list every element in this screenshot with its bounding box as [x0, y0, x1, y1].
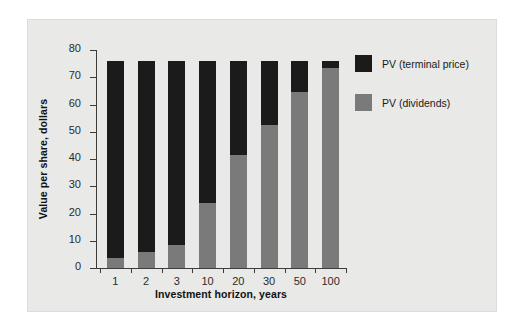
y-tick: 70 — [90, 77, 96, 78]
y-tick: 20 — [90, 214, 96, 215]
bar-segment-dividends — [107, 258, 124, 268]
x-tick — [285, 268, 286, 273]
y-tick-label: 80 — [55, 42, 81, 54]
y-tick-label: 20 — [55, 206, 81, 218]
bar-segment-terminal-price — [291, 61, 308, 92]
x-tick — [100, 268, 101, 273]
y-tick: 30 — [90, 186, 96, 187]
bar-segment-terminal-price — [199, 61, 216, 203]
y-tick-label: 30 — [55, 178, 81, 190]
bar-segment-terminal-price — [168, 61, 185, 245]
y-tick-label: 40 — [55, 151, 81, 163]
bar-segment-dividends — [322, 68, 339, 268]
y-axis-title-label: Value per share, dollars — [37, 99, 49, 219]
y-tick-label: 70 — [55, 69, 81, 81]
bar-30 — [261, 61, 278, 268]
bar-10 — [199, 61, 216, 268]
y-tick: 80 — [90, 50, 96, 51]
bar-segment-dividends — [291, 92, 308, 268]
bar-segment-dividends — [168, 245, 185, 268]
bar-segment-terminal-price — [261, 61, 278, 125]
x-tick — [254, 268, 255, 273]
x-tick — [192, 268, 193, 273]
y-tick-label: 10 — [55, 233, 81, 245]
x-tick — [315, 268, 316, 273]
chart-figure: Value per share, dollars 010203040506070… — [28, 20, 496, 311]
x-axis-title: Investment horizon, years — [96, 288, 346, 300]
x-tick — [223, 268, 224, 273]
y-axis-line — [96, 50, 97, 269]
bar-100 — [322, 61, 339, 268]
bar-segment-terminal-price — [230, 61, 247, 155]
x-tick — [131, 268, 132, 273]
legend-item: PV (dividends) — [355, 94, 469, 111]
legend-item: PV (terminal price) — [355, 55, 469, 72]
legend-label: PV (terminal price) — [382, 58, 469, 70]
bar-2 — [138, 61, 155, 268]
bar-segment-dividends — [261, 125, 278, 268]
bar-segment-terminal-price — [138, 61, 155, 252]
bar-1 — [107, 61, 124, 268]
bar-3 — [168, 61, 185, 268]
y-axis-title: Value per share, dollars — [36, 50, 50, 268]
bar-segment-terminal-price — [107, 61, 124, 258]
y-tick-label: 60 — [55, 97, 81, 109]
bar-segment-dividends — [230, 155, 247, 268]
legend-label: PV (dividends) — [382, 97, 450, 109]
bar-20 — [230, 61, 247, 268]
legend-swatch — [355, 55, 372, 72]
y-tick: 40 — [90, 159, 96, 160]
bar-segment-terminal-price — [322, 61, 339, 68]
y-tick: 60 — [90, 105, 96, 106]
y-tick-label: 50 — [55, 124, 81, 136]
x-axis-line — [96, 268, 346, 269]
x-tick — [346, 268, 347, 273]
bar-50 — [291, 61, 308, 268]
x-tick-label-100: 100 — [311, 275, 351, 287]
y-tick: 10 — [90, 241, 96, 242]
y-tick: 0 — [90, 268, 96, 269]
legend-swatch — [355, 94, 372, 111]
chart-legend: PV (terminal price)PV (dividends) — [355, 55, 469, 133]
bar-segment-dividends — [199, 203, 216, 268]
x-tick — [162, 268, 163, 273]
y-tick-label: 0 — [55, 260, 81, 272]
y-tick: 50 — [90, 132, 96, 133]
plot-area: 01020304050607080 12310203050100 — [96, 50, 342, 268]
bar-segment-dividends — [138, 252, 155, 268]
